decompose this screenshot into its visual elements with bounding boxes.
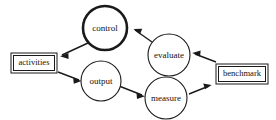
node-output[interactable]: output xyxy=(81,61,121,101)
edge-activities-to-output xyxy=(58,72,82,84)
node-output-label: output xyxy=(89,76,113,86)
node-benchmark-label: benchmark xyxy=(223,68,262,78)
edge-measure-to-benchmark xyxy=(189,84,212,94)
node-measure-label: measure xyxy=(151,93,181,103)
node-activities-label: activities xyxy=(18,57,50,67)
edge-control-to-activities xyxy=(60,43,88,59)
edge-benchmark-to-evaluate xyxy=(192,51,216,62)
node-control[interactable]: control xyxy=(83,6,127,50)
edge-output-to-measure-line xyxy=(119,86,142,95)
edge-output-to-measure xyxy=(119,86,145,99)
node-benchmark[interactable]: benchmark xyxy=(216,64,268,84)
node-measure[interactable]: measure xyxy=(145,77,187,119)
node-evaluate-label: evaluate xyxy=(154,50,184,60)
node-evaluate[interactable]: evaluate xyxy=(148,34,190,76)
node-activities[interactable]: activities xyxy=(11,53,57,73)
diagram-canvas: control activities output measure evalua… xyxy=(0,0,276,120)
edge-activities-to-output-line xyxy=(58,72,79,80)
node-control-label: control xyxy=(92,23,118,33)
edge-evaluate-to-control xyxy=(134,29,153,42)
diagram-svg: control activities output measure evalua… xyxy=(0,0,276,120)
edge-benchmark-to-evaluate-arrowhead xyxy=(192,51,201,57)
edge-control-to-activities-line xyxy=(62,43,88,55)
